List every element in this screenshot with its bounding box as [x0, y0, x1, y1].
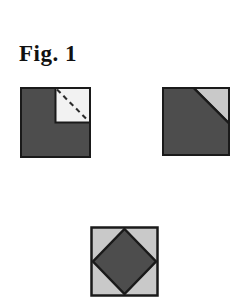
panel-square-with-inscribed-diamond — [90, 226, 159, 297]
square-with-folded-corner-diagram — [162, 87, 230, 156]
figure-page: Fig. 1 — [0, 0, 245, 300]
square-with-inscribed-diamond-diagram — [90, 226, 159, 297]
square-with-unfolded-corner-diagram — [20, 87, 91, 158]
panel-square-with-folded-corner — [162, 87, 230, 156]
figure-caption: Fig. 1 — [19, 41, 77, 67]
panel-square-with-unfolded-corner — [20, 87, 91, 158]
